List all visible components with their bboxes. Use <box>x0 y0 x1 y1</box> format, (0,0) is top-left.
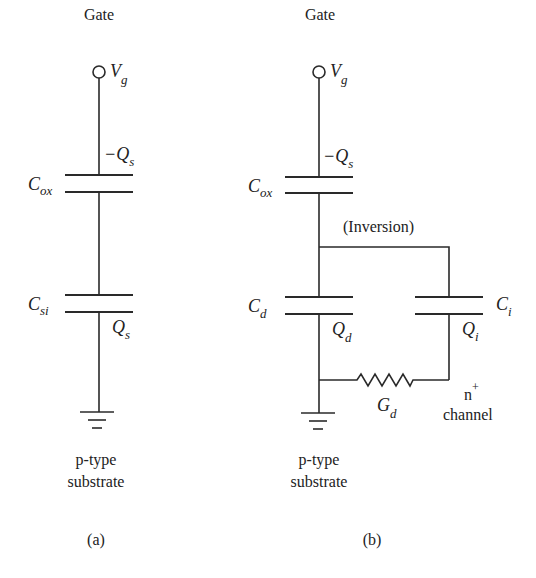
cd-label: Cd <box>248 296 267 321</box>
gd-label: Gd <box>377 395 397 421</box>
substrate-label-b: substrate <box>291 473 348 490</box>
inversion-branch-wire <box>319 247 449 297</box>
cox-label-a: Cox <box>28 174 53 198</box>
vg-label-b: Vg <box>330 61 348 87</box>
channel-label: channel <box>443 406 493 423</box>
qs-label-a: Qs <box>112 317 130 342</box>
neg-qs-label-a: −Qs <box>104 144 134 169</box>
caption-a: (a) <box>87 531 105 549</box>
ci-label: Ci <box>496 294 512 319</box>
cox-label-b: Cox <box>248 176 273 200</box>
caption-b: (b) <box>363 531 382 549</box>
qd-label: Qd <box>332 319 352 345</box>
inversion-label: (Inversion) <box>343 218 414 236</box>
substrate-type-a: p-type <box>76 451 117 469</box>
neg-qs-label-b: −Qs <box>323 146 353 171</box>
ground-icon-b <box>301 413 335 429</box>
gate-label-a: Gate <box>84 6 114 23</box>
vg-label-a: Vg <box>110 61 128 87</box>
substrate-type-b: p-type <box>299 451 340 469</box>
panel-a: Gate Vg −Qs Cox Csi Qs p-type substrate … <box>28 6 134 549</box>
qi-label: Qi <box>462 319 479 344</box>
substrate-label-a: substrate <box>68 473 125 490</box>
gate-terminal-icon-a <box>93 66 105 78</box>
n-plus-label: n+ <box>464 380 479 403</box>
gate-label-b: Gate <box>305 6 335 23</box>
gate-terminal-icon-b <box>313 66 325 78</box>
mos-capacitor-equivalent-circuits: Gate Vg −Qs Cox Csi Qs p-type substrate … <box>0 0 536 578</box>
csi-label-a: Csi <box>28 294 49 318</box>
ground-icon-a <box>80 412 114 428</box>
resistor-icon-gd <box>319 374 449 386</box>
panel-b: Gate Vg −Qs Cox (Inversion) Cd Qd Ci Qi … <box>248 6 512 549</box>
